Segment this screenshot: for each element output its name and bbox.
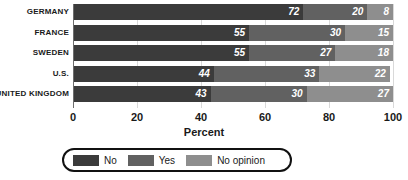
bar-segment-value: 55	[234, 48, 249, 58]
bar-segment-yes: 27	[249, 45, 335, 61]
bar-segment-value: 30	[291, 89, 306, 99]
bar-row: 553015	[73, 25, 393, 41]
category-label: UNITED KINGDOM	[0, 86, 69, 102]
bar-segment-value: 27	[320, 48, 335, 58]
bar-segment-yes: 30	[211, 86, 307, 102]
bar-segment-value: 43	[195, 89, 210, 99]
bar-segment-no-opinion: 27	[307, 86, 393, 102]
bar-segment-value: 44	[199, 69, 214, 79]
stacked-bar-chart: 72208553015552718443322433027 GERMANYFRA…	[0, 0, 408, 180]
bar-row: 552718	[73, 45, 393, 61]
legend-item[interactable]: No	[73, 155, 117, 166]
x-tick-label: 100	[384, 111, 402, 123]
category-label: U.S.	[0, 66, 69, 82]
chart-legend: NoYesNo opinion	[62, 148, 292, 172]
bar-segment-value: 27	[378, 89, 393, 99]
plot-area: 72208553015552718443322433027	[73, 4, 393, 108]
category-label: SWEDEN	[0, 45, 69, 61]
bar-segment-yes: 30	[249, 25, 345, 41]
bar-segment-value: 22	[375, 69, 390, 79]
x-tick-label: 60	[259, 111, 271, 123]
x-tick-label: 0	[70, 111, 76, 123]
bar-segment-value: 33	[304, 69, 319, 79]
legend-swatch	[73, 155, 99, 166]
bar-segment-no-opinion: 15	[345, 25, 393, 41]
bar-row: 443322	[73, 66, 393, 82]
bar-segment-value: 55	[234, 28, 249, 38]
x-tick-label: 80	[323, 111, 335, 123]
bar-segment-value: 18	[378, 48, 393, 58]
bar-segment-no-opinion: 8	[367, 4, 393, 20]
bar-segment-value: 30	[330, 28, 345, 38]
bar-segment-no: 43	[73, 86, 211, 102]
legend-swatch	[186, 155, 212, 166]
y-axis-line	[73, 4, 74, 108]
category-label: GERMANY	[0, 4, 69, 20]
bar-segment-value: 8	[383, 7, 393, 17]
bar-segment-no-opinion: 22	[319, 66, 389, 82]
bar-segment-no: 55	[73, 25, 249, 41]
bar-segment-no: 55	[73, 45, 249, 61]
legend-swatch	[128, 155, 154, 166]
category-label: FRANCE	[0, 25, 69, 41]
bar-segment-value: 20	[352, 7, 367, 17]
legend-label: No	[104, 155, 117, 166]
bar-segment-no-opinion: 18	[335, 45, 393, 61]
bar-segment-value: 15	[378, 28, 393, 38]
gridline	[393, 4, 394, 108]
bar-segment-no: 44	[73, 66, 214, 82]
legend-item[interactable]: No opinion	[186, 155, 265, 166]
bar-segment-value: 72	[288, 7, 303, 17]
bar-row: 433027	[73, 86, 393, 102]
bar-segment-no: 72	[73, 4, 303, 20]
x-tick-label: 20	[131, 111, 143, 123]
x-tick-label: 40	[195, 111, 207, 123]
bar-segment-yes: 20	[303, 4, 367, 20]
legend-label: No opinion	[217, 155, 265, 166]
x-axis-title: Percent	[0, 126, 408, 138]
bar-row: 72208	[73, 4, 393, 20]
legend-label: Yes	[159, 155, 175, 166]
bar-segment-yes: 33	[214, 66, 320, 82]
legend-item[interactable]: Yes	[128, 155, 175, 166]
